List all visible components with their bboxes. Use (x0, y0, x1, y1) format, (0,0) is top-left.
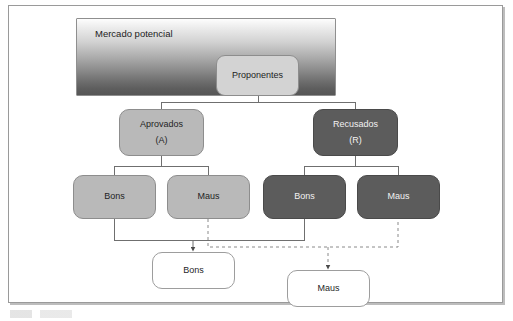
node-proponentes-label: Proponentes (232, 70, 283, 81)
node-recusados-maus-label: Maus (387, 191, 409, 202)
node-proponentes[interactable]: Proponentes (216, 55, 299, 96)
cropped-caption-fragment (10, 310, 130, 318)
node-recusados-sublabel: (R) (349, 135, 362, 146)
node-aprovados[interactable]: Aprovados (A) (119, 109, 204, 156)
node-recusados-bons[interactable]: Bons (263, 175, 346, 219)
node-recusados-maus[interactable]: Maus (357, 175, 440, 219)
node-output-bons-label: Bons (183, 265, 204, 276)
connector-bons-merge-bus (114, 219, 304, 240)
node-aprovados-bons[interactable]: Bons (73, 175, 156, 219)
node-recusados[interactable]: Recusados (R) (313, 109, 398, 156)
connector-maus-merge-bus (208, 219, 398, 247)
node-mercado-potencial-label: Mercado potencial (95, 28, 173, 40)
node-recusados-label: Recusados (333, 119, 378, 130)
node-recusados-bons-label: Bons (294, 191, 315, 202)
diagram-canvas: Mercado potencial Proponentes Aprovados … (0, 0, 513, 321)
node-output-maus-label: Maus (317, 283, 339, 294)
node-aprovados-bons-label: Bons (104, 191, 125, 202)
node-aprovados-maus-label: Maus (197, 191, 219, 202)
figure-screenshot: Mercado potencial Proponentes Aprovados … (0, 0, 513, 321)
node-output-bons[interactable]: Bons (152, 252, 235, 289)
node-output-maus[interactable]: Maus (287, 270, 370, 307)
node-aprovados-maus[interactable]: Maus (167, 175, 250, 219)
node-aprovados-label: Aprovados (140, 119, 183, 130)
node-aprovados-sublabel: (A) (156, 135, 168, 146)
